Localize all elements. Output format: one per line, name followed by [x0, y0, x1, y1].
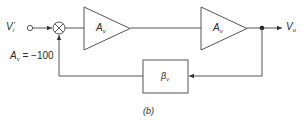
gain-subscript: v	[17, 56, 20, 62]
amp1-subscript: v	[103, 28, 106, 34]
output-subscript: o	[293, 27, 296, 33]
gain-symbol: A	[10, 50, 17, 61]
gain-value: = −100	[20, 50, 54, 61]
summing-junction-icon	[53, 22, 65, 34]
amplifier-2-label: Av	[213, 23, 223, 34]
input-symbol: V	[6, 21, 13, 32]
amp2-symbol: A	[213, 22, 220, 33]
input-prime: ′	[14, 21, 15, 28]
gain-note: Av = −100	[10, 51, 54, 62]
figure-caption: (b)	[143, 106, 154, 116]
amplifier-1-label: Av	[96, 23, 106, 34]
output-label: Vo	[286, 22, 296, 33]
amplifier-2-triangle	[201, 7, 247, 50]
amplifier-1-triangle	[84, 7, 130, 50]
feedback-network-label: βv	[161, 71, 169, 82]
amp1-symbol: A	[96, 22, 103, 33]
amp2-subscript: v	[220, 28, 223, 34]
input-terminal	[27, 25, 32, 30]
input-label: Vi′	[6, 22, 15, 33]
beta-subscript: v	[166, 76, 169, 82]
output-symbol: V	[286, 21, 293, 32]
